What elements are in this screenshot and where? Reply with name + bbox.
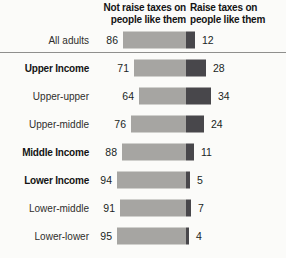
not-raise-value: 76	[114, 118, 126, 130]
raise-bar	[186, 144, 194, 161]
row-label: Upper-middle	[29, 119, 89, 130]
chart-row: All adults 86 12	[0, 26, 286, 54]
col-header-not-raise-line2: people like them	[0, 14, 186, 26]
row-label: Lower Income	[24, 175, 89, 186]
not-raise-value: 86	[106, 34, 118, 46]
not-raise-bar	[134, 60, 186, 77]
raise-bar	[186, 60, 206, 77]
not-raise-bar	[131, 116, 186, 133]
raise-value: 24	[211, 118, 223, 130]
raise-bar	[186, 228, 189, 245]
chart-row: Middle Income 88 11	[0, 138, 286, 166]
not-raise-value: 91	[103, 202, 115, 214]
row-label: Upper Income	[25, 63, 89, 74]
not-raise-bar	[122, 144, 186, 161]
raise-bar	[186, 88, 211, 105]
col-header-raise-line2: people like them	[190, 14, 284, 26]
raise-bar	[186, 116, 204, 133]
chart-row: Upper-middle 76 24	[0, 110, 286, 138]
row-label: Middle Income	[22, 147, 89, 158]
raise-value: 5	[197, 174, 203, 186]
chart: Not raise taxes on people like them Rais…	[0, 0, 286, 258]
row-label: Lower-lower	[35, 231, 89, 242]
not-raise-value: 71	[117, 62, 129, 74]
raise-bar	[186, 200, 191, 217]
chart-row: Lower-lower 95 4	[0, 222, 286, 250]
chart-row: Upper-upper 64 34	[0, 82, 286, 110]
chart-row: Lower-middle 91 7	[0, 194, 286, 222]
raise-value: 11	[201, 146, 212, 158]
not-raise-value: 64	[122, 90, 134, 102]
raise-bar	[186, 172, 190, 189]
chart-row: Lower Income 94 5	[0, 166, 286, 194]
raise-value: 28	[213, 62, 225, 74]
raise-value: 12	[202, 34, 214, 46]
raise-bar	[186, 32, 195, 49]
col-header-raise-line1: Raise taxes on	[190, 2, 284, 14]
col-header-not-raise: Not raise taxes on people like them	[0, 2, 186, 25]
not-raise-bar	[123, 32, 186, 49]
row-label: Upper-upper	[33, 91, 89, 102]
not-raise-value: 88	[105, 146, 117, 158]
not-raise-bar	[117, 228, 186, 245]
not-raise-bar	[120, 200, 186, 217]
raise-value: 4	[196, 230, 202, 242]
chart-row: Upper Income 71 28	[0, 54, 286, 82]
col-header-raise: Raise taxes on people like them	[190, 2, 284, 25]
not-raise-value: 95	[100, 230, 112, 242]
raise-value: 34	[218, 90, 230, 102]
raise-value: 7	[198, 202, 204, 214]
not-raise-bar	[139, 88, 186, 105]
not-raise-value: 94	[100, 174, 112, 186]
not-raise-bar	[117, 172, 186, 189]
row-label: All adults	[48, 35, 89, 46]
col-header-not-raise-line1: Not raise taxes on	[0, 2, 186, 14]
row-label: Lower-middle	[29, 203, 89, 214]
